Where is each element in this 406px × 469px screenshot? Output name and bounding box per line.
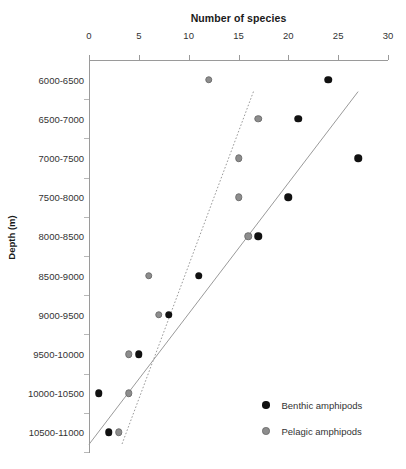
legend-marker-icon	[262, 401, 270, 409]
data-point	[105, 429, 113, 437]
legend-item-pelagic[interactable]: Pelagic amphipods	[262, 418, 402, 444]
y-tick-mark	[84, 138, 89, 139]
x-tick-mark	[288, 55, 289, 60]
data-point	[145, 272, 153, 280]
x-axis-title: Number of species	[89, 12, 388, 24]
legend-item-benthic[interactable]: Benthic amphipods	[262, 392, 402, 418]
chart-legend: Benthic amphipodsPelagic amphipods	[262, 392, 402, 444]
data-point	[255, 233, 263, 241]
y-tick-mark	[84, 178, 89, 179]
data-point	[195, 272, 203, 280]
data-point	[235, 154, 243, 162]
y-tick-label-9000-9500: 9000-9500	[39, 309, 84, 320]
data-point	[295, 115, 303, 123]
y-tick-mark	[84, 413, 89, 414]
y-axis-title: Depth (m)	[6, 203, 17, 273]
x-tick-mark	[139, 55, 140, 60]
data-point	[245, 233, 253, 241]
data-point	[354, 154, 362, 162]
data-point	[135, 350, 143, 358]
y-tick-label-8500-9000: 8500-9000	[39, 270, 84, 281]
y-tick-label-6500-7000: 6500-7000	[39, 113, 84, 124]
x-tick-label-20: 20	[273, 30, 303, 41]
y-tick-mark	[84, 217, 89, 218]
y-tick-label-10500-11000: 10500-11000	[29, 427, 84, 438]
data-point	[165, 311, 173, 319]
y-tick-label-9500-10000: 9500-10000	[33, 349, 84, 360]
data-point	[205, 76, 213, 84]
x-tick-label-25: 25	[323, 30, 353, 41]
data-point	[95, 389, 103, 397]
x-tick-mark	[189, 55, 190, 60]
x-tick-label-5: 5	[124, 30, 154, 41]
y-tick-mark	[84, 334, 89, 335]
x-tick-label-30: 30	[373, 30, 403, 41]
data-point	[324, 76, 332, 84]
y-tick-mark	[84, 374, 89, 375]
data-point	[155, 311, 163, 319]
y-tick-label-10000-10500: 10000-10500	[28, 388, 84, 399]
y-tick-label-7500-8000: 7500-8000	[39, 192, 84, 203]
x-tick-mark	[338, 55, 339, 60]
data-point	[115, 429, 123, 437]
y-tick-mark	[84, 295, 89, 296]
legend-item-label: Benthic amphipods	[282, 400, 363, 411]
x-tick-mark	[89, 55, 90, 60]
legend-item-label: Pelagic amphipods	[282, 426, 362, 437]
y-tick-label-7000-7500: 7000-7500	[39, 153, 84, 164]
scatter-chart: Number of species Depth (m) 051015202530…	[0, 0, 406, 469]
pelagic-trendline	[122, 92, 254, 445]
y-tick-label-6000-6500: 6000-6500	[39, 74, 84, 85]
y-tick-label-8000-8500: 8000-8500	[39, 231, 84, 242]
y-tick-mark	[84, 99, 89, 100]
data-point	[235, 193, 243, 201]
data-point	[285, 193, 293, 201]
data-point	[255, 115, 263, 123]
x-tick-label-0: 0	[74, 30, 104, 41]
x-tick-label-10: 10	[174, 30, 204, 41]
legend-marker-icon	[262, 427, 270, 435]
y-tick-mark	[84, 256, 89, 257]
x-tick-label-15: 15	[224, 30, 254, 41]
x-tick-mark	[388, 55, 389, 60]
y-tick-mark	[84, 452, 89, 453]
data-point	[125, 389, 133, 397]
x-tick-mark	[239, 55, 240, 60]
data-point	[125, 350, 133, 358]
